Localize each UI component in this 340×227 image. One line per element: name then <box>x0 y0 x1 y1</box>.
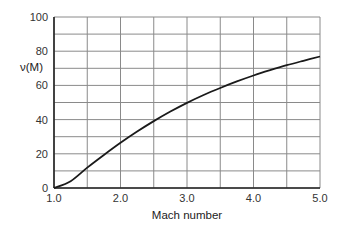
y-tick-label: 20 <box>36 148 48 160</box>
x-axis-label: Mach number <box>152 209 222 221</box>
chart: 1.02.03.04.05.0020406080100 Mach number … <box>0 0 340 227</box>
x-tick-label: 2.0 <box>113 192 128 204</box>
x-tick-label: 1.0 <box>46 192 61 204</box>
y-tick-label: 100 <box>30 11 48 23</box>
x-tick-label: 4.0 <box>246 192 261 204</box>
y-tick-label: 40 <box>36 114 48 126</box>
y-axis-label: ν(M) <box>20 61 43 73</box>
y-tick-label: 80 <box>36 45 48 57</box>
y-tick-label: 60 <box>36 79 48 91</box>
x-tick-label: 3.0 <box>179 192 194 204</box>
y-tick-label: 0 <box>42 182 48 194</box>
x-tick-label: 5.0 <box>312 192 327 204</box>
